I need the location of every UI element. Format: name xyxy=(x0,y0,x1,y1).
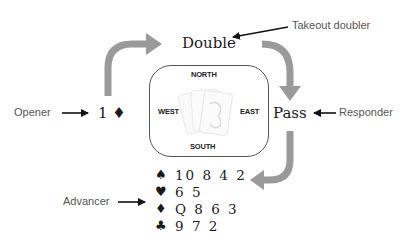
club-cards: 9 7 2 xyxy=(175,218,219,234)
hand-row-diamonds: ♦ Q 8 6 3 xyxy=(155,200,247,217)
advancer-label: Advancer xyxy=(63,195,109,207)
hand-row-spades: ♠ 10 8 4 2 xyxy=(155,166,247,183)
west-label: WEST xyxy=(158,107,179,116)
heart-cards: 6 5 xyxy=(175,184,202,200)
diamond-cards: Q 8 6 3 xyxy=(175,201,239,217)
opener-label: Opener xyxy=(14,106,51,118)
spade-icon: ♠ xyxy=(155,167,175,182)
playing-cards-icon xyxy=(178,82,240,148)
responder-label: Responder xyxy=(339,106,393,118)
takeout-doubler-label: Takeout doubler xyxy=(292,19,370,31)
advancer-hand: ♠ 10 8 4 2 ♥ 6 5 ♦ Q 8 6 3 ♣ 9 7 2 xyxy=(155,166,247,234)
east-label: EAST xyxy=(240,107,259,116)
double-bid: Double xyxy=(182,34,236,52)
south-label: SOUTH xyxy=(190,142,215,151)
opener-bid: 1 ♦ xyxy=(98,104,126,122)
pass-bid: Pass xyxy=(273,104,307,122)
diamond-icon: ♦ xyxy=(155,201,175,216)
takeout-doubler-pointer-arrow xyxy=(233,27,288,37)
hand-row-clubs: ♣ 9 7 2 xyxy=(155,217,247,234)
north-label: NORTH xyxy=(191,70,217,79)
heart-icon: ♥ xyxy=(155,184,175,199)
hand-row-hearts: ♥ 6 5 xyxy=(155,183,247,200)
spade-cards: 10 8 4 2 xyxy=(175,167,247,183)
club-icon: ♣ xyxy=(155,218,175,233)
